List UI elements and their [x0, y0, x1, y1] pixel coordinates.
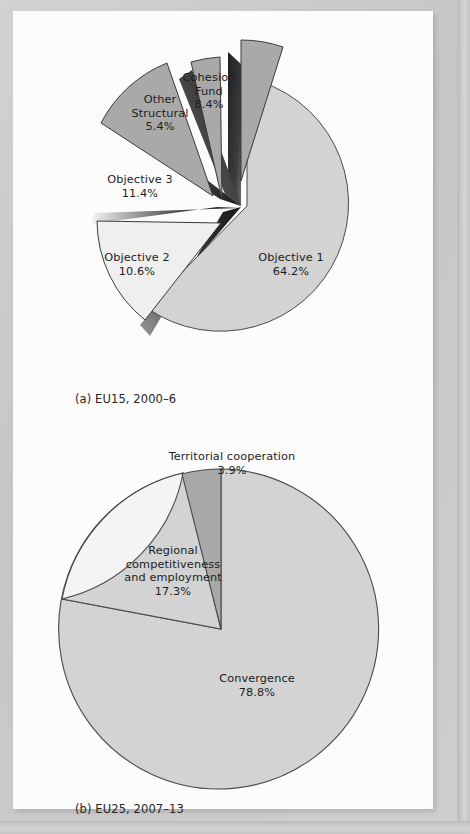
pie-label-other-structural-text: Other Structural	[132, 93, 189, 120]
pie-label-objective-1: Objective 1 64.2%	[232, 237, 350, 292]
pie-label-objective-3: Objective 3 11.4%	[85, 159, 195, 214]
pie-label-territorial-cooperation-text: Territorial cooperation	[169, 450, 296, 463]
pie-label-objective-2-text: Objective 2	[104, 251, 169, 264]
pie-label-regional-competitiveness: Regional competitiveness and employment …	[111, 530, 235, 613]
figure-page: Objective 1 64.2% Cohesion Fund 8.4% Oth…	[13, 11, 433, 809]
screenshot-root: Objective 1 64.2% Cohesion Fund 8.4% Oth…	[0, 0, 470, 834]
pie-label-convergence-text: Convergence	[219, 672, 295, 685]
pie-label-regional-competitiveness-value: 17.3%	[111, 585, 235, 599]
pie-label-objective-3-value: 11.4%	[85, 187, 195, 201]
pie-label-territorial-cooperation: Territorial cooperation 3.9%	[137, 436, 327, 491]
scan-frame-right-edge	[457, 0, 470, 834]
pie-label-territorial-cooperation-value: 3.9%	[137, 464, 327, 478]
pie-label-regional-competitiveness-text: Regional competitiveness and employment	[124, 544, 222, 585]
pie-label-objective-1-value: 64.2%	[232, 265, 350, 279]
pie-label-objective-2-value: 10.6%	[83, 265, 191, 279]
figure-caption-b: (b) EU25, 2007–13	[75, 802, 184, 816]
pie-label-other-structural: Other Structural 5.4%	[120, 79, 200, 148]
pie-label-objective-1-text: Objective 1	[258, 251, 323, 264]
pie-label-objective-2: Objective 2 10.6%	[83, 237, 191, 292]
pie-label-other-structural-value: 5.4%	[120, 120, 200, 134]
scan-frame-bottom-edge	[0, 821, 470, 834]
pie-label-convergence-value: 78.8%	[197, 686, 317, 700]
figure-caption-a: (a) EU15, 2000–6	[75, 392, 176, 406]
pie-label-convergence: Convergence 78.8%	[197, 658, 317, 713]
pie-label-objective-3-text: Objective 3	[107, 173, 172, 186]
